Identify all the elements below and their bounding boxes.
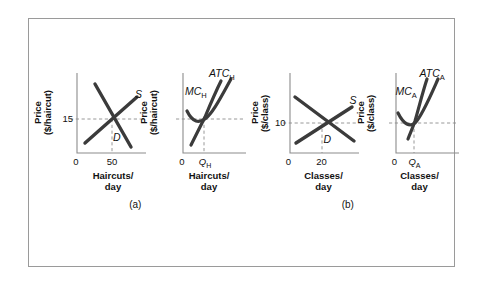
x-tick-qa: QA xyxy=(403,156,427,169)
x-tick-qa-text: Q xyxy=(408,156,415,167)
x-axis-label-line2: day xyxy=(73,182,153,193)
mc-label-text: MC xyxy=(185,85,201,97)
y-tick-15: 15 xyxy=(51,113,73,124)
atc-label-sub: A xyxy=(440,73,445,82)
panel-a: S D Price ($/haircut) 15 0 50 Haircuts/ … xyxy=(29,19,242,266)
x-axis-label-market-haircuts: Haircuts/ day xyxy=(73,171,153,192)
x-axis-label-line2: day xyxy=(380,182,460,193)
supply-curve xyxy=(85,97,137,143)
figure-frame: S D Price ($/haircut) 15 0 50 Haircuts/ … xyxy=(28,18,455,267)
x-tick-qa-sub: A xyxy=(416,162,421,169)
y-axis-label-firm-classes: Price ($/class) xyxy=(356,77,377,149)
atc-label-sub: H xyxy=(229,73,234,82)
y-axis-label-line2: ($/class) xyxy=(366,77,376,149)
x-tick-origin: 0 xyxy=(386,156,404,167)
x-axis-label-market-classes: Classes/ day xyxy=(284,171,364,192)
chart-market-haircuts: S D Price ($/haircut) 15 0 50 Haircuts/ … xyxy=(47,71,147,163)
y-axis-label-line1: Price xyxy=(250,77,260,149)
x-axis-label-firm-haircuts: Haircuts/ day xyxy=(169,171,249,192)
atc-curve-label: ATCA xyxy=(420,67,445,82)
x-tick-origin: 0 xyxy=(280,156,298,167)
mc-curve-label: MCA xyxy=(396,85,417,100)
chart-market-classes: S D Price ($/class) 10 0 20 Classes/ day xyxy=(260,71,360,163)
x-tick-qh: QH xyxy=(193,156,217,169)
mc-label-sub: H xyxy=(201,91,206,100)
x-tick-20: 20 xyxy=(312,156,332,167)
panel-a-caption: (a) xyxy=(29,199,242,210)
x-tick-50: 50 xyxy=(102,156,122,167)
y-axis-label-line2: ($/haircut) xyxy=(149,77,159,149)
y-axis-label-line1: Price xyxy=(356,77,366,149)
x-axis-label-line2: day xyxy=(284,182,364,193)
demand-curve-label: D xyxy=(324,133,332,145)
chart-firm-classes: ATCA MCA Price ($/class) 0 QA Classes/ d… xyxy=(360,71,460,163)
x-axis-label-line2: day xyxy=(169,182,249,193)
mc-label-text: MC xyxy=(396,85,412,97)
atc-label-text: ATC xyxy=(209,67,229,79)
atc-label-text: ATC xyxy=(420,67,440,79)
x-tick-origin: 0 xyxy=(67,156,85,167)
demand-curve-label: D xyxy=(113,131,121,143)
mc-curve-label: MCH xyxy=(185,85,207,100)
mc-label-sub: A xyxy=(412,91,417,100)
y-tick-10: 10 xyxy=(264,117,286,128)
chart-firm-haircuts: ATCH MCH Price ($/haircut) 0 QH Haircuts… xyxy=(147,71,247,163)
y-axis-label-market-classes: Price ($/class) xyxy=(250,77,271,149)
x-axis-label-firm-classes: Classes/ day xyxy=(380,171,460,192)
y-axis-label-firm-haircuts: Price ($/haircut) xyxy=(139,77,160,149)
x-tick-qh-sub: H xyxy=(206,162,211,169)
y-axis-label-line2: ($/class) xyxy=(260,77,270,149)
panel-b-caption: (b) xyxy=(242,199,455,210)
panel-b: S D Price ($/class) 10 0 20 Classes/ day xyxy=(242,19,455,266)
x-tick-origin: 0 xyxy=(173,156,191,167)
atc-curve-label: ATCH xyxy=(209,67,235,82)
